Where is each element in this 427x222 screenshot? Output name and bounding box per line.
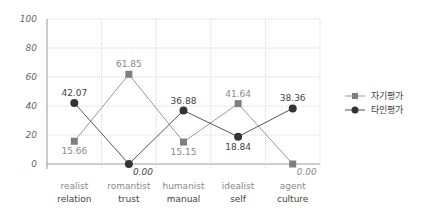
line-chart: 020406080100 realistrelationromantisttru… (0, 0, 427, 222)
circle-marker-icon (352, 107, 359, 114)
y-tick-label: 20 (26, 130, 38, 140)
data-label: 0.00 (133, 167, 153, 177)
square-marker (235, 100, 242, 107)
circle-marker (289, 104, 297, 112)
y-tick-label: 80 (26, 43, 38, 53)
x-category-label: agent (280, 181, 306, 191)
y-tick-label: 40 (26, 101, 38, 111)
data-label: 42.07 (61, 88, 87, 98)
data-label: 61.85 (116, 59, 142, 69)
circle-marker (125, 160, 133, 168)
data-label: 41.64 (225, 89, 251, 99)
legend-label: 타인평가 (371, 105, 403, 115)
square-marker (71, 138, 78, 145)
circle-marker (70, 99, 78, 107)
x-axis-labels: realistrelationromantisttrusthumanistman… (57, 181, 309, 204)
data-label: 15.66 (61, 146, 87, 156)
square-marker (180, 139, 187, 146)
circle-marker (180, 107, 188, 115)
x-category-sublabel: culture (277, 194, 309, 204)
data-label: 36.88 (171, 96, 197, 106)
x-category-label: idealist (222, 181, 255, 191)
x-category-sublabel: manual (167, 194, 201, 204)
legend-item: 타인평가 (345, 105, 403, 115)
legend-label: 자기평가 (371, 91, 403, 101)
y-tick-label: 0 (31, 159, 37, 169)
x-category-label: humanist (162, 181, 205, 191)
x-category-sublabel: trust (118, 194, 140, 204)
square-marker (125, 71, 132, 78)
x-category-sublabel: self (230, 194, 247, 204)
legend-item: 자기평가 (345, 91, 403, 101)
data-label: 18.84 (225, 142, 251, 152)
square-marker-icon (352, 93, 358, 99)
circle-marker (234, 133, 242, 141)
x-category-label: realist (60, 181, 88, 191)
legend: 자기평가타인평가 (345, 91, 403, 115)
data-label: 15.15 (171, 147, 197, 157)
y-tick-label: 100 (20, 14, 37, 24)
square-marker (289, 161, 296, 168)
y-tick-label: 60 (26, 72, 38, 82)
data-label: 38.36 (280, 93, 306, 103)
x-category-sublabel: relation (57, 194, 91, 204)
y-axis-ticks: 020406080100 (20, 14, 37, 169)
x-category-label: romantist (107, 181, 151, 191)
data-label: 0.00 (297, 167, 317, 177)
